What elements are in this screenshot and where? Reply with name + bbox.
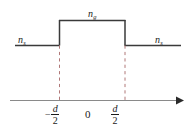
step-index-profile-figure: ns ng ns − d 2 0 d 2 bbox=[0, 0, 189, 140]
label-cladding-right-subscript: s bbox=[160, 39, 163, 46]
label-core-subscript: g bbox=[93, 13, 96, 20]
fraction-pos-half-d: d 2 bbox=[111, 104, 119, 126]
fraction-denominator: 2 bbox=[52, 115, 59, 126]
label-cladding-left: ns bbox=[18, 30, 26, 46]
fraction-numerator: d bbox=[52, 104, 59, 115]
minus-sign: − bbox=[45, 110, 51, 120]
tick-label-pos-half-d: d 2 bbox=[111, 104, 119, 126]
label-core: ng bbox=[88, 4, 96, 20]
tick-label-neg-half-d: − d 2 bbox=[45, 104, 59, 126]
label-cladding-left-subscript: s bbox=[23, 39, 26, 46]
fraction-neg-half-d: d 2 bbox=[51, 104, 59, 126]
label-cladding-right: ns bbox=[155, 30, 163, 46]
fraction-numerator: d bbox=[112, 104, 119, 115]
figure-canvas bbox=[0, 0, 189, 140]
fraction-denominator: 2 bbox=[112, 115, 119, 126]
tick-label-origin: 0 bbox=[85, 109, 91, 120]
x-axis-arrow-icon bbox=[176, 97, 184, 105]
